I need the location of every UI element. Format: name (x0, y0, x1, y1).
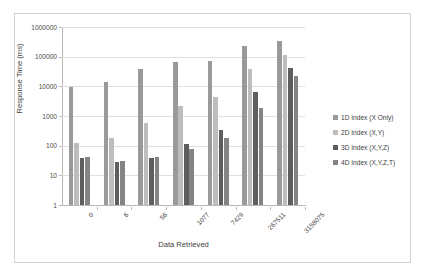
legend-swatch-icon (333, 130, 338, 135)
y-axis-tick (59, 146, 62, 147)
y-axis-tick-label: 10000 (39, 83, 57, 90)
legend-label: 1D Index (X Only) (341, 114, 393, 121)
x-axis-line (62, 205, 306, 206)
y-axis-tick (59, 175, 62, 176)
y-axis-title: Response Time (ms) (15, 26, 24, 132)
y-axis-tick (59, 205, 62, 206)
y-axis-tick-labels: 1000000100000100001000100101 (0, 0, 57, 276)
x-axis-tick (270, 207, 271, 210)
bar[interactable] (288, 68, 293, 205)
legend-item-2d-index[interactable]: 2D Index (X,Y) (333, 125, 425, 140)
legend-item-4d-index[interactable]: 4D Index (X,Y,Z,T) (333, 155, 425, 170)
y-axis-tick (59, 116, 62, 117)
y-axis-tick (59, 86, 62, 87)
bar[interactable] (294, 76, 299, 205)
legend-swatch-icon (333, 160, 338, 165)
legend-swatch-icon (333, 115, 338, 120)
y-axis-tick-label: 100 (46, 142, 57, 149)
x-axis-tick (166, 207, 167, 210)
legend-item-3d-index[interactable]: 3D Index (X,Y,Z) (333, 140, 425, 155)
y-axis-tick-label: 1 (53, 202, 57, 209)
x-axis-title: Data Retrieved (62, 240, 305, 249)
y-axis-tick (59, 57, 62, 58)
legend-label: 2D Index (X,Y) (341, 129, 384, 136)
y-axis-tick-label: 10 (50, 172, 57, 179)
y-axis-tick-label: 1000 (42, 113, 57, 120)
legend-label: 4D Index (X,Y,Z,T) (341, 159, 395, 166)
y-axis-tick (59, 27, 62, 28)
bar[interactable] (277, 41, 282, 205)
x-axis-tick (236, 207, 237, 210)
bar[interactable] (283, 55, 288, 205)
plot-area (62, 27, 305, 205)
legend-swatch-icon (333, 145, 338, 150)
x-axis-tick (131, 207, 132, 210)
x-axis-tick (201, 207, 202, 210)
y-axis-tick-label: 1000000 (31, 24, 57, 31)
x-axis-tick (97, 207, 98, 210)
bar-group (62, 27, 305, 205)
chart-legend: 1D Index (X Only)2D Index (X,Y)3D Index … (333, 110, 425, 170)
legend-item-1d-index[interactable]: 1D Index (X Only) (333, 110, 425, 125)
y-axis-tick-label: 100000 (35, 53, 57, 60)
legend-label: 3D Index (X,Y,Z) (341, 144, 389, 151)
x-axis-tick (305, 207, 306, 210)
